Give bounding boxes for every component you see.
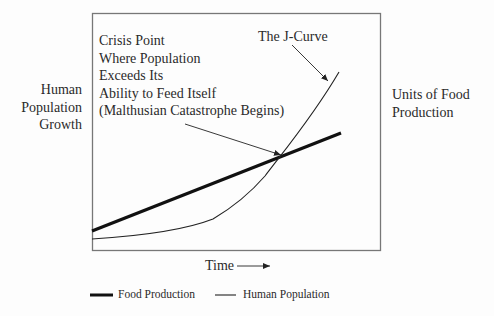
crisis-arrow: [185, 124, 281, 155]
crisis-annotation-line: Crisis Point: [99, 32, 284, 50]
crisis-annotation-line: Exceeds Its: [99, 67, 284, 85]
left-axis-label-line: Growth: [21, 116, 82, 134]
left-axis-label: Human Population Growth: [21, 81, 82, 134]
right-axis-label-line: Units of Food: [392, 86, 470, 104]
jcurve-arrow: [292, 45, 328, 81]
jcurve-annotation: The J-Curve: [258, 28, 328, 46]
right-axis-label-line: Production: [392, 104, 470, 122]
crisis-point-annotation: Crisis Point Where Population Exceeds It…: [99, 32, 284, 120]
crisis-annotation-line: (Malthusian Catastrophe Begins): [99, 102, 284, 120]
crisis-annotation-line: Ability to Feed Itself: [99, 85, 284, 103]
x-axis-label: Time: [205, 257, 234, 275]
legend-population-label: Human Population: [243, 287, 330, 302]
left-axis-label-line: Population: [21, 99, 82, 117]
left-axis-label-line: Human: [21, 81, 82, 99]
crisis-annotation-line: Where Population: [99, 50, 284, 68]
right-axis-label: Units of Food Production: [392, 86, 470, 121]
legend-food-label: Food Production: [118, 287, 195, 302]
